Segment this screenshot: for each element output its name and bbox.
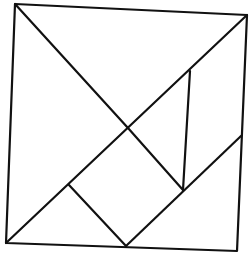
square-left-edge	[69, 185, 126, 246]
tangram-diagram	[0, 0, 250, 256]
anti-diagonal-bl-to-tr	[6, 15, 247, 243]
center-to-square-right	[128, 128, 183, 190]
lower-right-diagonal	[126, 136, 241, 246]
main-diagonal-tl-to-center	[15, 4, 128, 128]
parallelogram-vertical	[183, 71, 190, 190]
tangram-piece-lines	[6, 4, 247, 246]
